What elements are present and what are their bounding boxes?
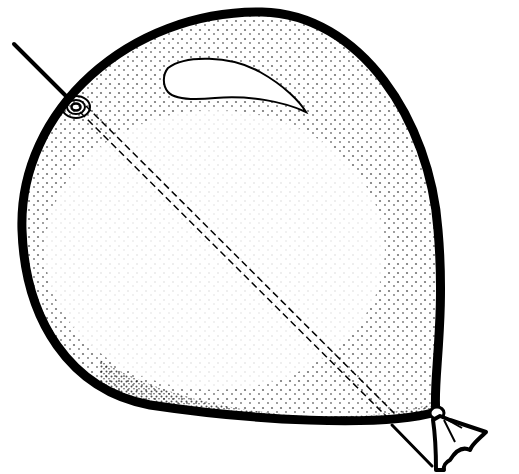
balloon-knot-icon xyxy=(430,407,486,470)
balloon-needle-illustration xyxy=(0,0,519,474)
